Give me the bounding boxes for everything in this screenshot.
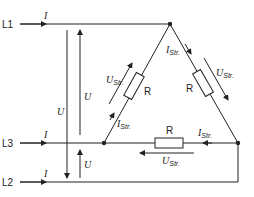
phase-current-label-right: IStr. bbox=[165, 44, 180, 56]
resistor-label-bottom: R bbox=[166, 125, 173, 136]
line-l1: L1 I bbox=[2, 10, 170, 30]
line-voltage-arrows: U U U bbox=[57, 30, 92, 178]
phase-voltage-label-bottom: UStr. bbox=[162, 155, 180, 167]
label-l2: L2 bbox=[2, 177, 14, 188]
phase-current-label-left: IStr. bbox=[116, 118, 131, 130]
resistor-left bbox=[124, 72, 144, 99]
branch-left: R IStr. UStr. bbox=[104, 24, 170, 143]
current-label-l3: I bbox=[43, 129, 48, 140]
current-label-l2: I bbox=[43, 168, 48, 179]
resistor-right bbox=[193, 69, 214, 96]
line-l2: L2 I bbox=[2, 143, 238, 188]
phase-voltage-label-left: UStr. bbox=[106, 74, 124, 86]
label-l1: L1 bbox=[2, 19, 14, 30]
voltage-label-l1-l2: U bbox=[57, 106, 65, 117]
resistor-bottom bbox=[155, 138, 183, 148]
resistor-label-right: R bbox=[186, 83, 193, 94]
label-l3: L3 bbox=[2, 138, 14, 149]
phase-voltage-label-right: UStr. bbox=[216, 67, 234, 79]
phase-current-arrow-left bbox=[110, 113, 114, 120]
branch-right: R IStr. UStr. bbox=[165, 24, 238, 143]
resistor-label-left: R bbox=[144, 86, 151, 97]
branch-bottom: R IStr. UStr. bbox=[140, 125, 212, 167]
phase-current-label-bottom: IStr. bbox=[197, 127, 212, 139]
delta-circuit-diagram: L1 I L3 I L2 I U U U R IStr. bbox=[0, 0, 254, 197]
current-label-l1: I bbox=[43, 10, 48, 21]
voltage-label-l2-l3: U bbox=[84, 159, 92, 170]
voltage-label-l3-l1: U bbox=[84, 91, 92, 102]
